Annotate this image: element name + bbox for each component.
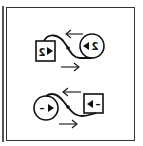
bottom-circle-label: –: [40, 103, 45, 114]
bottom-square-label: –: [96, 99, 101, 110]
bottom-circle: [34, 96, 58, 120]
bottom-upper-arrow-left-icon: [63, 88, 81, 96]
top-upper-arrow-left-icon: [66, 30, 83, 38]
bottom-belt-dot: [66, 105, 70, 109]
top-circle-label: 2: [91, 41, 98, 52]
top-diagram: 2 2: [36, 30, 104, 71]
top-square-label: 2: [38, 47, 45, 58]
top-lower-arrow-right-icon: [61, 63, 79, 71]
bottom-diagram: – –: [34, 88, 103, 128]
belt-drive-diagram: 2 2 – –: [0, 0, 143, 146]
top-belt-dot: [66, 46, 70, 50]
bottom-lower-arrow-right-icon: [59, 120, 77, 128]
